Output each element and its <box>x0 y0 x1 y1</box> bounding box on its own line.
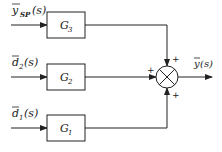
block-diagram: y SP (s) d 2 (s) d 1 (s) G 3 G 2 G 1 <box>0 0 222 152</box>
input-label-ysp: y SP (s) <box>11 4 46 19</box>
svg-text:(s): (s) <box>24 56 38 69</box>
svg-text:d: d <box>12 107 19 120</box>
svg-text:3: 3 <box>68 26 73 34</box>
svg-text:(s): (s) <box>200 58 213 69</box>
signal-g1-to-sum <box>85 88 167 128</box>
svg-text:2: 2 <box>67 78 73 86</box>
sign-bottom: + <box>172 90 180 100</box>
signal-g3-to-sum <box>85 25 167 66</box>
block-g3: G 3 <box>47 12 85 38</box>
svg-text:d: d <box>12 56 19 69</box>
sign-left: + <box>147 65 155 75</box>
svg-text:y: y <box>193 58 200 69</box>
svg-text:(s): (s) <box>32 4 46 17</box>
svg-text:y: y <box>11 4 19 17</box>
svg-text:SP: SP <box>20 10 31 19</box>
input-label-d1: d 1 (s) <box>12 107 38 122</box>
input-label-d2: d 2 (s) <box>12 56 38 71</box>
summing-junction <box>156 66 178 88</box>
block-g2: G 2 <box>47 64 85 90</box>
svg-text:1: 1 <box>19 114 23 122</box>
svg-text:1: 1 <box>68 129 72 137</box>
output-label: y (s) <box>193 58 213 69</box>
sign-top: + <box>172 54 180 64</box>
block-g1: G 1 <box>47 115 85 141</box>
svg-text:(s): (s) <box>24 107 38 120</box>
